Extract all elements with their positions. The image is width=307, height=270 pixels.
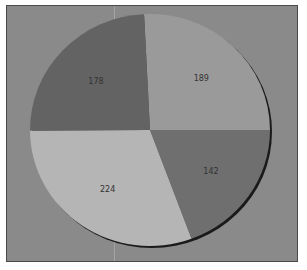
pie-chart: 142224178189 [0,0,307,270]
pie-slice-189 [144,14,270,130]
slice-label: 189 [194,74,209,83]
slice-label: 178 [88,77,103,86]
slice-label: 224 [100,185,115,194]
slice-label: 142 [203,167,218,176]
pie-slice-178 [30,14,150,130]
